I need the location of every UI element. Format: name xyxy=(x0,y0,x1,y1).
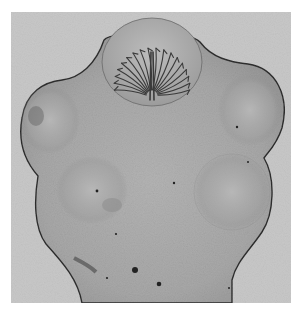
speck xyxy=(96,190,99,193)
speck xyxy=(236,126,238,128)
lower-left-sucker xyxy=(56,156,128,224)
speck xyxy=(106,277,108,279)
speck xyxy=(115,233,117,235)
hook-barb xyxy=(188,76,189,81)
rostellum xyxy=(102,18,202,106)
scolex-illustration xyxy=(0,0,302,311)
lower-left-sucker-shadow xyxy=(102,198,122,212)
speck xyxy=(228,287,230,289)
hook-barb xyxy=(122,63,127,64)
speck xyxy=(247,161,249,163)
upper-right-sucker xyxy=(218,74,282,146)
speck xyxy=(157,282,162,287)
upper-left-sucker-shadow xyxy=(28,106,44,126)
rostellum-dome xyxy=(102,18,202,106)
speck xyxy=(173,182,175,184)
lower-right-sucker xyxy=(194,154,270,230)
micrograph-image xyxy=(0,0,302,311)
speck xyxy=(132,267,138,273)
